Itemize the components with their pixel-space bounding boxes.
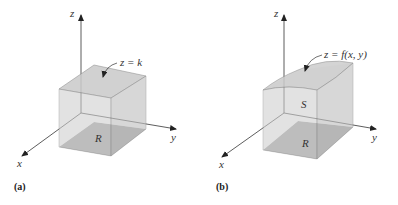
y-axis-label: y [170,131,176,143]
box-front-face [59,89,111,156]
x-axis-label: x [218,158,224,170]
z-axis-label: z [69,7,75,19]
panel-a: z x y z = k R (a) [14,7,176,193]
figure-canvas: z x y z = k R (a) z x y z = f(x, y) S R … [0,0,398,205]
y-axis-label: y [371,131,377,143]
top-surface-label: z = k [119,56,143,68]
top-surface-label: z = f(x, y) [323,48,367,61]
panel-tag-a: (a) [14,181,26,193]
box-front-face [263,87,317,159]
panel-tag-b: (b) [216,181,228,193]
base-region-label: R [94,132,102,144]
solid-label: S [301,98,307,110]
z-axis-label: z [273,7,279,19]
base-region-label: R [301,137,309,149]
panel-b: z x y z = f(x, y) S R (b) [216,7,377,193]
x-axis-label: x [16,157,22,169]
